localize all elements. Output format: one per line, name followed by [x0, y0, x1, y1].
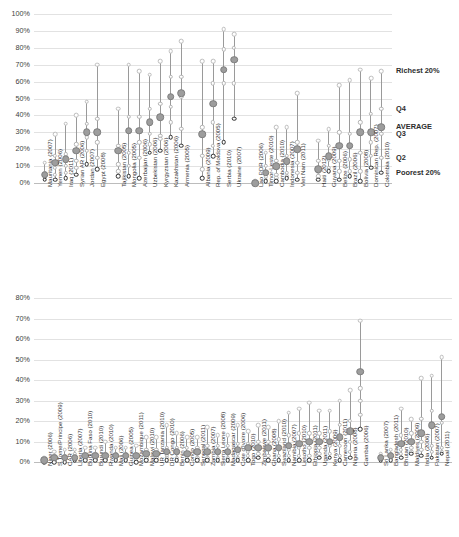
marker-average: [336, 142, 344, 150]
marker-richest-20: [317, 408, 322, 413]
plot-area-bottom: 0%10%20%30%40%50%60%70%80%Niger (2006)S.…: [0, 270, 459, 537]
marker-richest-20: [116, 106, 121, 111]
gridline: [34, 360, 452, 361]
marker-average: [157, 113, 165, 121]
marker-q3: [379, 132, 383, 136]
x-axis-category-label: Gambia (2006): [363, 425, 369, 466]
marker-q2: [221, 81, 225, 85]
y-axis-tick-label: 60%: [0, 335, 30, 342]
gridline: [34, 298, 452, 299]
marker-q3: [169, 105, 173, 109]
y-axis-tick-label: 10%: [0, 162, 30, 169]
gridline: [34, 339, 452, 340]
y-axis-tick-label: 20%: [0, 417, 30, 424]
marker-q4: [221, 47, 225, 51]
legend-label: Poorest 20%: [396, 169, 440, 176]
marker-q4: [137, 115, 141, 119]
marker-average: [378, 123, 386, 131]
marker-richest-20: [211, 59, 216, 64]
y-axis-tick-label: 30%: [0, 397, 30, 404]
y-axis-tick-label: 20%: [0, 146, 30, 153]
x-axis-category-label: Serbia (2010): [226, 150, 232, 187]
marker-richest-20: [358, 67, 363, 72]
marker-average: [199, 130, 207, 138]
y-axis-tick-label: 50%: [0, 356, 30, 363]
marker-richest-20: [327, 127, 332, 132]
marker-richest-20: [84, 100, 89, 105]
marker-average: [135, 127, 143, 135]
range-stem: [297, 93, 298, 179]
y-axis-tick-label: 40%: [0, 112, 30, 119]
marker-average: [93, 129, 101, 137]
marker-richest-20: [348, 78, 353, 83]
gridline: [34, 48, 392, 49]
marker-average: [146, 118, 154, 126]
y-axis-tick-label: 70%: [0, 315, 30, 322]
marker-richest-20: [74, 113, 79, 118]
y-axis-tick-label: 0%: [0, 179, 30, 186]
marker-richest-20: [338, 398, 343, 403]
y-axis-tick-label: 100%: [0, 10, 30, 17]
marker-richest-20: [307, 400, 312, 405]
marker-q3: [148, 132, 152, 136]
x-axis-category-label: Albania (2009): [205, 147, 211, 187]
marker-q2: [232, 81, 236, 85]
marker-richest-20: [429, 374, 434, 379]
x-axis-category-label: Uzbekistan (2006): [152, 138, 158, 187]
marker-richest-20: [337, 83, 342, 88]
x-axis-category-label: Azerbaijan (2006): [142, 139, 148, 187]
marker-poorest-20: [221, 140, 226, 145]
marker-richest-20: [221, 27, 226, 32]
marker-q4: [348, 132, 352, 136]
legend-label: Q3: [396, 130, 406, 137]
marker-q4: [169, 74, 173, 78]
chart-panel-bottom: 0%10%20%30%40%50%60%70%80%Niger (2006)S.…: [0, 270, 459, 537]
x-axis-category-label: Colombia (2010): [384, 142, 390, 187]
marker-richest-20: [379, 69, 384, 74]
x-axis-category-label: Pakistan (2007): [434, 423, 440, 466]
marker-richest-20: [295, 91, 300, 96]
gridline: [34, 14, 392, 15]
y-axis-tick-label: 80%: [0, 44, 30, 51]
y-axis-tick-label: 40%: [0, 376, 30, 383]
marker-richest-20: [126, 62, 131, 67]
y-axis-tick-label: 90%: [0, 27, 30, 34]
y-axis-tick-label: 0%: [0, 458, 30, 465]
marker-average: [209, 100, 217, 108]
gridline: [34, 380, 452, 381]
marker-q2: [358, 413, 362, 417]
marker-q4: [429, 409, 433, 413]
y-axis-tick-label: 50%: [0, 95, 30, 102]
y-axis-tick-label: 10%: [0, 438, 30, 445]
x-axis-category-label: Rep. of Moldova (2005): [215, 123, 221, 187]
marker-q4: [158, 101, 162, 105]
marker-q4: [200, 125, 204, 129]
range-stem: [360, 70, 361, 182]
marker-richest-20: [358, 318, 363, 323]
marker-average: [220, 66, 228, 74]
marker-q4: [179, 74, 183, 78]
marker-average: [167, 93, 175, 101]
chart-panel-top: 0%10%20%30%40%50%60%70%80%90%100%Maurita…: [0, 0, 459, 270]
marker-q4: [358, 386, 362, 390]
marker-richest-20: [419, 376, 424, 381]
marker-richest-20: [409, 417, 414, 422]
marker-average: [357, 129, 365, 137]
marker-richest-20: [53, 132, 58, 137]
marker-q4: [211, 81, 215, 85]
marker-q4: [148, 106, 152, 110]
marker-richest-20: [200, 59, 205, 64]
range-stem: [202, 61, 203, 178]
marker-q2: [169, 120, 173, 124]
marker-richest-20: [369, 76, 374, 81]
marker-average: [230, 56, 238, 64]
marker-richest-20: [399, 406, 404, 411]
marker-q4: [348, 419, 352, 423]
x-axis-category-label: Armenia (2005): [184, 145, 190, 187]
quintile-dot-chart-figure: 0%10%20%30%40%50%60%70%80%90%100%Maurita…: [0, 0, 459, 537]
marker-poorest-20: [232, 116, 237, 121]
y-axis-tick-label: 60%: [0, 78, 30, 85]
legend-label: Q4: [396, 105, 406, 112]
legend-label: Richest 20%: [396, 68, 440, 75]
marker-average: [356, 368, 364, 376]
